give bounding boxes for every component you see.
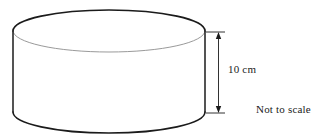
- dimension-arrowhead-bottom-icon: [216, 106, 221, 113]
- height-dimension-label: 10 cm: [228, 63, 256, 75]
- cylinder-top-front-arc: [13, 31, 205, 52]
- cylinder-diagram: [0, 0, 331, 139]
- cylinder-base-front-arc: [13, 112, 205, 133]
- geometry-figure: 10 cm Not to scale: [0, 0, 331, 139]
- not-to-scale-label: Not to scale: [256, 103, 311, 115]
- dimension-arrowhead-top-icon: [216, 32, 221, 39]
- cylinder-top-back-arc: [13, 10, 205, 31]
